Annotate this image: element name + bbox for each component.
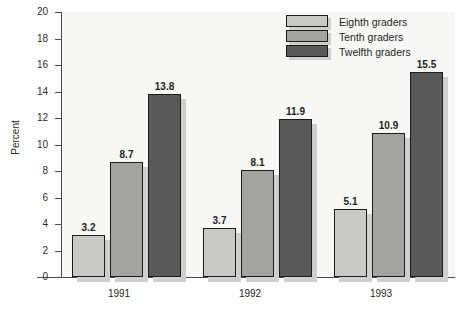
bar[interactable]	[72, 235, 105, 277]
legend-label: Tenth graders	[339, 31, 403, 43]
y-tick-label: 2	[14, 246, 48, 256]
x-group-label: 1992	[191, 288, 309, 299]
legend-swatch-wrap	[286, 45, 330, 58]
y-tick-mark	[55, 118, 61, 119]
bar-value-label: 3.2	[66, 222, 111, 233]
y-axis-line	[61, 12, 62, 278]
y-tick-mark	[55, 12, 61, 13]
bar[interactable]	[334, 209, 367, 277]
bar-value-label: 11.9	[273, 106, 318, 117]
bar[interactable]	[279, 119, 312, 277]
bar[interactable]	[241, 170, 274, 277]
y-tick-mark	[55, 92, 61, 93]
y-axis-title: Percent	[10, 103, 21, 173]
legend-item[interactable]: Eighth graders	[286, 14, 411, 29]
legend-swatch-wrap	[286, 30, 330, 43]
y-tick-label: 20	[14, 7, 48, 17]
legend-item[interactable]: Twelfth graders	[286, 44, 411, 59]
y-tick-mark	[55, 224, 61, 225]
y-tick-mark	[55, 198, 61, 199]
y-tick-label: 18	[14, 34, 48, 44]
bar-value-label: 5.1	[328, 196, 373, 207]
x-group-label: 1993	[322, 288, 440, 299]
y-tick-mark	[55, 251, 61, 252]
bar[interactable]	[410, 72, 443, 277]
bar-value-label: 10.9	[366, 120, 411, 131]
legend-swatch	[286, 45, 328, 57]
bar-value-label: 8.1	[235, 157, 280, 168]
y-tick-label: 14	[14, 87, 48, 97]
y-tick-label: 6	[14, 193, 48, 203]
y-tick-label: 16	[14, 60, 48, 70]
bar-chart: 20181614121086420 Percent 3.28.713.83.78…	[0, 0, 471, 310]
legend: Eighth gradersTenth gradersTwelfth grade…	[286, 14, 411, 59]
legend-swatch-wrap	[286, 15, 330, 28]
x-group-label: 1991	[60, 288, 178, 299]
y-tick-mark	[55, 39, 61, 40]
bar-value-label: 8.7	[104, 149, 149, 160]
legend-label: Twelfth graders	[339, 46, 411, 58]
legend-swatch	[286, 15, 328, 27]
y-tick-label: 0	[14, 272, 48, 282]
bar-value-label: 3.7	[197, 215, 242, 226]
y-tick-mark	[55, 171, 61, 172]
y-tick-mark	[55, 145, 61, 146]
y-tick-mark	[55, 277, 61, 278]
legend-item[interactable]: Tenth graders	[286, 29, 411, 44]
bar[interactable]	[148, 94, 181, 277]
bar[interactable]	[372, 133, 405, 277]
y-tick-mark	[55, 65, 61, 66]
bar-value-label: 15.5	[404, 59, 449, 70]
legend-label: Eighth graders	[339, 16, 407, 28]
bar[interactable]	[110, 162, 143, 277]
legend-swatch	[286, 30, 328, 42]
y-tick-label: 4	[14, 219, 48, 229]
bar-value-label: 13.8	[142, 81, 187, 92]
bar[interactable]	[203, 228, 236, 277]
